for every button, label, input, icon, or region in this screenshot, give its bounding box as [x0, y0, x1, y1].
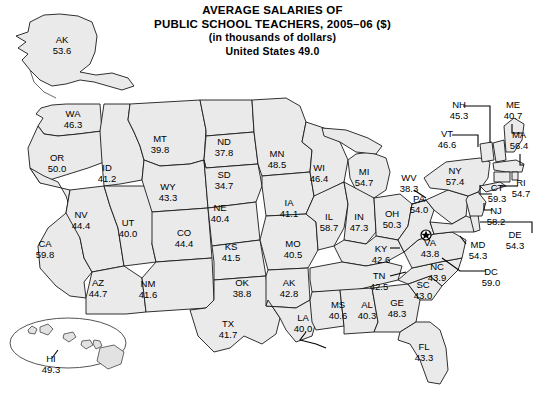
state-shape-alaska[interactable]	[16, 14, 134, 90]
state-shape-south-dakota[interactable]	[204, 132, 258, 168]
hawaii-island-molokai	[63, 332, 76, 342]
hawaii-island-kauai	[28, 326, 37, 334]
state-shape-mississippi[interactable]	[310, 290, 344, 330]
dc-star-marker[interactable]	[421, 230, 431, 240]
leader-line-wv	[414, 190, 426, 198]
state-shape-iowa[interactable]	[262, 172, 314, 216]
state-shape-new-mexico[interactable]	[142, 258, 214, 312]
state-shape-nebraska[interactable]	[204, 160, 262, 208]
state-shape-kansas[interactable]	[208, 202, 260, 246]
state-shape-maine[interactable]	[504, 118, 524, 152]
state-shape-washington[interactable]	[36, 104, 102, 136]
hawaii-island-maui	[81, 340, 93, 349]
state-shape-arkansas[interactable]	[266, 268, 310, 308]
leader-line-vt	[452, 135, 478, 147]
leader-line-nh	[463, 106, 490, 143]
state-shape-connecticut[interactable]	[494, 172, 510, 182]
map-figure: AVERAGE SALARIES OF PUBLIC SCHOOL TEACHE…	[0, 0, 545, 399]
leader-line-de	[480, 222, 532, 233]
hawaii-leader-line	[52, 350, 58, 358]
state-shape-wyoming[interactable]	[142, 160, 208, 212]
state-shape-florida[interactable]	[398, 322, 448, 384]
us-map	[0, 0, 545, 399]
leader-line-la	[300, 332, 326, 348]
state-shape-north-dakota[interactable]	[200, 100, 254, 136]
state-shape-alabama[interactable]	[340, 288, 378, 334]
state-shape-new-hampshire[interactable]	[493, 140, 506, 162]
state-shape-rhode-island[interactable]	[512, 172, 518, 180]
state-shape-vermont[interactable]	[480, 142, 494, 162]
state-shape-oklahoma[interactable]	[212, 240, 266, 280]
hawaii-island-oahu	[40, 324, 53, 335]
state-shape-colorado[interactable]	[152, 208, 212, 262]
state-shape-arizona[interactable]	[86, 266, 146, 314]
state-shape-missouri[interactable]	[260, 214, 318, 270]
hawaii-island-hawaii	[97, 345, 124, 369]
